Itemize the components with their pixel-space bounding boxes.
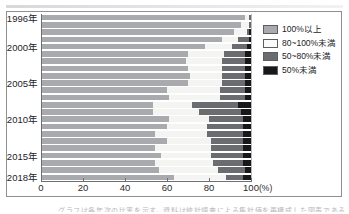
legend-swatch-icon (263, 52, 278, 61)
bar-segment (167, 124, 207, 130)
bar-segment (42, 124, 167, 130)
bar-segment (211, 153, 242, 159)
bar-segment (238, 102, 251, 108)
bar-segment (234, 29, 247, 35)
bar-segment (42, 145, 155, 151)
bar-segment (199, 109, 241, 115)
legend-item[interactable]: 80~100%未満 (263, 38, 343, 49)
bar-segment (159, 167, 218, 173)
bar-segment (243, 131, 251, 137)
x-axis-tick-label: 100 (243, 182, 259, 193)
bar-row (42, 29, 251, 35)
y-axis-labels: 1996年2000年2005年2010年2015年2018年 (0, 0, 41, 196)
bar-segment (42, 131, 155, 137)
bar-row (42, 138, 251, 144)
bar-segment (222, 73, 245, 79)
bar-segment (42, 138, 167, 144)
bar-segment (243, 160, 251, 166)
bar-row (42, 109, 251, 115)
plot-right-edge (251, 14, 252, 181)
bar-segment (211, 138, 242, 144)
bar-segment (155, 145, 211, 151)
legend-swatch-icon (263, 25, 278, 34)
bar-segment (155, 131, 207, 137)
bar-segment (169, 95, 219, 101)
bar-segment (167, 138, 211, 144)
bar-row (42, 58, 251, 64)
bar-segment (243, 145, 251, 151)
x-axis-tick-label: 60 (162, 182, 173, 193)
bar-segment (42, 95, 169, 101)
bar-row (42, 66, 251, 72)
bar-segment (188, 80, 221, 86)
bar-row (42, 153, 251, 159)
bar-segment (188, 51, 224, 57)
bar-segment (243, 138, 251, 144)
bar-series-container (42, 14, 251, 181)
bar-segment (42, 37, 222, 43)
x-axis-tick-label: 20 (78, 182, 89, 193)
bar-row (42, 15, 251, 21)
bar-row (42, 160, 251, 166)
bar-segment (220, 87, 245, 93)
bar-row (42, 22, 251, 28)
bar-segment (42, 109, 153, 115)
bar-row (42, 87, 251, 93)
bar-segment (238, 37, 248, 43)
bar-row (42, 131, 251, 137)
bar-segment (186, 58, 222, 64)
x-axis-tick-label: 0 (38, 182, 43, 193)
top-divider-rule (6, 5, 343, 8)
bar-segment (42, 153, 161, 159)
bar-segment (226, 175, 243, 181)
bar-segment (153, 109, 199, 115)
bar-segment (213, 160, 242, 166)
bar-row (42, 102, 251, 108)
bar-segment (243, 116, 251, 122)
bar-row (42, 145, 251, 151)
bar-row (42, 95, 251, 101)
bar-segment (155, 160, 214, 166)
bar-row (42, 37, 251, 43)
bar-segment (222, 58, 245, 64)
bar-segment (42, 44, 205, 50)
bar-segment (42, 160, 155, 166)
bar-segment (42, 175, 174, 181)
y-axis-tick-label: 2005年 (7, 76, 38, 90)
bar-segment (42, 87, 167, 93)
y-axis-tick-label: 1996年 (7, 11, 38, 25)
bar-segment (211, 145, 242, 151)
bar-segment (188, 66, 221, 72)
bar-segment (241, 109, 251, 115)
bar-segment (205, 44, 232, 50)
y-axis-tick-label: 2010年 (7, 112, 38, 126)
bar-segment (42, 15, 245, 21)
legend-item[interactable]: 100%以上 (263, 24, 343, 35)
bar-segment (243, 124, 251, 130)
legend-item-label: 50~80%未満 (282, 52, 331, 61)
legend-swatch-icon (263, 66, 278, 75)
chart-figure: 1996年2000年2005年2010年2015年2018年 020406080… (0, 0, 349, 214)
bar-segment (42, 66, 188, 72)
bar-segment (161, 153, 211, 159)
bar-segment (207, 124, 243, 130)
bar-segment (167, 87, 219, 93)
bar-segment (243, 153, 251, 159)
legend-item[interactable]: 50%未満 (263, 65, 343, 76)
bar-segment (153, 102, 193, 108)
bar-row (42, 44, 251, 50)
bar-row (42, 51, 251, 57)
legend-swatch-icon (263, 39, 278, 48)
bar-segment (207, 131, 243, 137)
bar-segment (174, 175, 226, 181)
bar-segment (42, 80, 188, 86)
chart-legend: 100%以上80~100%未満50~80%未満50%未満 (263, 24, 343, 78)
bar-segment (42, 58, 186, 64)
bar-segment (222, 80, 245, 86)
bar-segment (232, 44, 247, 50)
bar-segment (42, 167, 159, 173)
y-axis-tick-label: 2000年 (7, 40, 38, 54)
bar-segment (190, 73, 221, 79)
legend-item[interactable]: 50~80%未満 (263, 51, 343, 62)
legend-item-label: 100%以上 (282, 25, 322, 34)
